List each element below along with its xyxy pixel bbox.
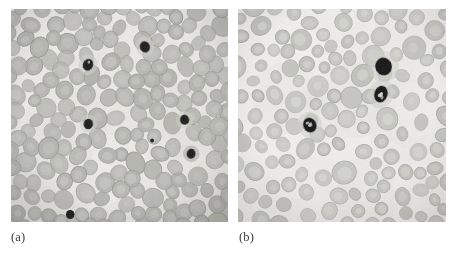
panel-a-image — [11, 9, 228, 222]
panel-b-canvas — [238, 9, 446, 222]
panel-a-canvas — [11, 9, 228, 222]
panel-a-caption: (a) — [11, 231, 25, 244]
figure-root: (a) (b) — [0, 0, 455, 255]
panel-b-image — [238, 9, 446, 222]
panel-b-caption: (b) — [239, 231, 254, 244]
